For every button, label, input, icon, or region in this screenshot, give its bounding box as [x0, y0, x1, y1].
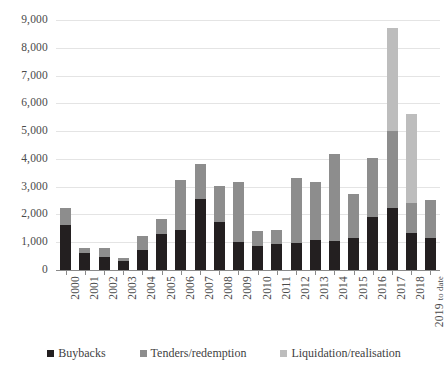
bar-segment-tenders-redemption[interactable] [175, 180, 186, 230]
bar-segment-tenders-redemption[interactable] [118, 258, 129, 261]
bar-segment-tenders-redemption[interactable] [387, 131, 398, 208]
bar-group[interactable] [214, 20, 225, 270]
bar-group[interactable] [60, 20, 71, 270]
bar-group[interactable] [118, 20, 129, 270]
bar-segment-tenders-redemption[interactable] [425, 200, 436, 238]
bar-group[interactable] [310, 20, 321, 270]
bar-segment-tenders-redemption[interactable] [406, 203, 417, 234]
x-axis-tick-label: 2016 [377, 276, 389, 300]
bar-segment-tenders-redemption[interactable] [195, 164, 206, 199]
bar-segment-liquidation-realisation[interactable] [406, 114, 417, 203]
bar-segment-buybacks[interactable] [118, 261, 129, 270]
bar-segment-tenders-redemption[interactable] [137, 236, 148, 250]
chart-legend: BuybacksTenders/redemptionLiquidation/re… [0, 344, 448, 362]
bar-segment-buybacks[interactable] [367, 217, 378, 270]
axis-baseline [56, 270, 440, 271]
bar-group[interactable] [137, 20, 148, 270]
bar-group[interactable] [156, 20, 167, 270]
plot-area [56, 20, 440, 270]
bar-segment-buybacks[interactable] [79, 253, 90, 270]
y-axis: 9,0008,0007,0006,0005,0004,0003,0002,000… [0, 20, 48, 270]
y-axis-tick-label: 9,000 [21, 14, 48, 26]
bar-group[interactable] [233, 20, 244, 270]
bar-group[interactable] [195, 20, 206, 270]
bar-segment-buybacks[interactable] [233, 242, 244, 270]
bar-segment-buybacks[interactable] [156, 234, 167, 270]
bar-segment-buybacks[interactable] [271, 244, 282, 270]
bar-group[interactable] [387, 20, 398, 270]
y-axis-tick-label: 4,000 [21, 153, 48, 165]
bar-segment-buybacks[interactable] [99, 257, 110, 270]
bar-segment-liquidation-realisation[interactable] [387, 28, 398, 131]
x-axis-tick [411, 270, 412, 275]
bar-segment-tenders-redemption[interactable] [329, 154, 340, 241]
bar-group[interactable] [99, 20, 110, 270]
x-axis-tick-label: 2017 [396, 276, 408, 300]
stacked-bar-chart: 9,0008,0007,0006,0005,0004,0003,0002,000… [0, 0, 448, 368]
x-axis-tick [238, 270, 239, 275]
x-axis-tick [123, 270, 124, 275]
bar-group[interactable] [291, 20, 302, 270]
bar-group[interactable] [175, 20, 186, 270]
bar-segment-buybacks[interactable] [175, 230, 186, 270]
bar-segment-tenders-redemption[interactable] [99, 248, 110, 257]
bar-segment-buybacks[interactable] [291, 243, 302, 270]
x-axis-tick [258, 270, 259, 275]
x-axis-tick-label: 2002 [108, 276, 120, 300]
legend-label: Buybacks [58, 346, 105, 361]
bar-group[interactable] [271, 20, 282, 270]
bar-segment-tenders-redemption[interactable] [252, 231, 263, 245]
x-axis-tick-label: 2005 [166, 276, 178, 300]
x-axis-tick-label: 2009 [242, 276, 254, 300]
bar-segment-tenders-redemption[interactable] [271, 230, 282, 243]
x-axis-tick [181, 270, 182, 275]
bar-segment-buybacks[interactable] [137, 250, 148, 270]
bar-segment-buybacks[interactable] [329, 241, 340, 270]
x-axis-tick [430, 270, 431, 275]
bar-group[interactable] [329, 20, 340, 270]
bar-segment-buybacks[interactable] [387, 208, 398, 270]
bar-segment-tenders-redemption[interactable] [291, 178, 302, 243]
legend-item[interactable]: Buybacks [47, 346, 105, 361]
legend-item[interactable]: Tenders/redemption [140, 346, 247, 361]
legend-swatch-icon [280, 350, 287, 357]
x-axis-tick [354, 270, 355, 275]
x-axis-tick-label: 2006 [185, 276, 197, 300]
y-axis-tick-label: 1,000 [21, 236, 48, 248]
x-axis-tick [296, 270, 297, 275]
bar-segment-tenders-redemption[interactable] [156, 219, 167, 234]
bar-segment-buybacks[interactable] [60, 225, 71, 270]
bar-group[interactable] [406, 20, 417, 270]
bar-group[interactable] [348, 20, 359, 270]
y-axis-tick-label: 6,000 [21, 97, 48, 109]
bar-group[interactable] [252, 20, 263, 270]
x-axis-tick [142, 270, 143, 275]
x-axis-tick-label: 2001 [89, 276, 101, 300]
bar-group[interactable] [425, 20, 436, 270]
x-axis-tick-label: 2019 to date [434, 276, 447, 327]
bar-segment-tenders-redemption[interactable] [310, 182, 321, 240]
bar-segment-buybacks[interactable] [214, 222, 225, 270]
bar-segment-buybacks[interactable] [348, 238, 359, 270]
bar-segment-tenders-redemption[interactable] [60, 208, 71, 225]
x-axis-tick-label: 2007 [204, 276, 216, 300]
bar-segment-buybacks[interactable] [310, 240, 321, 270]
x-axis-tick [334, 270, 335, 275]
bar-segment-tenders-redemption[interactable] [348, 194, 359, 238]
legend-item[interactable]: Liquidation/realisation [280, 346, 400, 361]
bar-segment-tenders-redemption[interactable] [233, 182, 244, 241]
bar-group[interactable] [367, 20, 378, 270]
legend-swatch-icon [140, 350, 147, 357]
bar-segment-buybacks[interactable] [425, 238, 436, 270]
bar-group[interactable] [79, 20, 90, 270]
bar-segment-tenders-redemption[interactable] [79, 248, 90, 253]
bar-segment-buybacks[interactable] [406, 233, 417, 270]
x-axis-tick-label: 2008 [223, 276, 235, 300]
bar-segment-buybacks[interactable] [252, 246, 263, 270]
x-axis: 2000200120022003200420052006200720082009… [56, 276, 440, 338]
bar-segment-buybacks[interactable] [195, 199, 206, 270]
bar-segment-tenders-redemption[interactable] [367, 158, 378, 216]
legend-label: Liquidation/realisation [291, 346, 400, 361]
bar-segment-tenders-redemption[interactable] [214, 186, 225, 222]
legend-label: Tenders/redemption [151, 346, 247, 361]
